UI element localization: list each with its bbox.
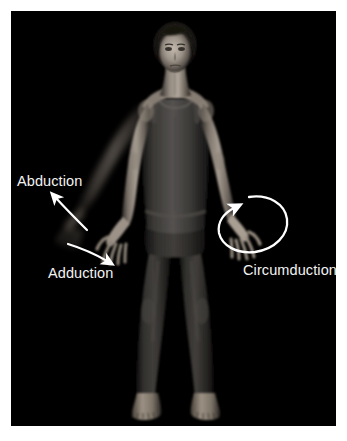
figure-frame: Abduction Adduction Circumduction (0, 0, 347, 441)
subject-photograph (11, 11, 336, 426)
label-abduction: Abduction (17, 174, 82, 189)
label-circumduction: Circumduction (243, 263, 336, 278)
torso (143, 97, 209, 234)
label-adduction: Adduction (48, 266, 113, 281)
photograph-plate: Abduction Adduction Circumduction (11, 11, 336, 426)
subject-illustration (11, 11, 336, 426)
